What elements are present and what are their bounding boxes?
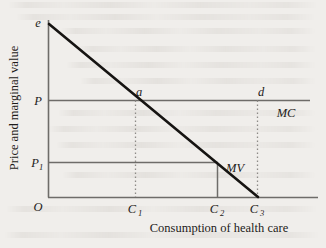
svg-text:3: 3 xyxy=(259,208,264,218)
origin-label: O xyxy=(33,200,42,214)
x-tick-label-C3: C 3 xyxy=(250,202,264,218)
svg-text:C: C xyxy=(250,202,259,216)
mv-curve-label: MV xyxy=(225,161,245,175)
x-axis-title: Consumption of health care xyxy=(150,221,289,235)
y-tick-label-P: P xyxy=(33,94,42,108)
point-label-e: e xyxy=(35,16,41,30)
point-label-a: a xyxy=(136,85,142,99)
y-tick-label-P1: P 1 xyxy=(30,156,43,172)
health-care-mv-mc-figure: e a d MC MV O P P 1 C 1 C 2 C 3 Price an… xyxy=(0,0,326,248)
svg-text:C: C xyxy=(210,202,219,216)
mc-curve-label: MC xyxy=(276,106,296,120)
svg-text:2: 2 xyxy=(220,208,225,218)
svg-text:C: C xyxy=(128,202,137,216)
svg-text:1: 1 xyxy=(39,162,43,172)
chart-canvas: e a d MC MV O P P 1 C 1 C 2 C 3 Price an… xyxy=(0,0,326,248)
svg-text:P: P xyxy=(30,156,39,170)
x-tick-label-C2: C 2 xyxy=(210,202,225,218)
x-tick-label-C1: C 1 xyxy=(128,202,142,218)
y-axis-title: Price and marginal value xyxy=(7,45,21,170)
svg-text:1: 1 xyxy=(138,208,142,218)
point-label-d: d xyxy=(258,85,265,99)
